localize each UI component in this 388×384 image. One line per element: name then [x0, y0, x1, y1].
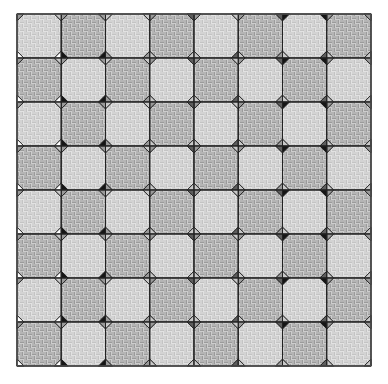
octagon-tile-medium [150, 14, 194, 58]
octagon-tile-light [150, 234, 194, 278]
octagon-tile-medium [17, 234, 61, 278]
octagon-tile-medium [327, 14, 371, 58]
octagon-tile-light [150, 322, 194, 366]
octagon-tile-medium [106, 146, 150, 190]
octagon-tile-medium [283, 58, 327, 102]
octagon-tile-medium [106, 234, 150, 278]
octagon-tile-light [194, 278, 238, 322]
octagon-tile-medium [238, 190, 282, 234]
octagon-tile-medium [283, 146, 327, 190]
octagon-tile-board [0, 0, 388, 384]
octagon-tile-light [283, 102, 327, 146]
octagon-tile-light [17, 102, 61, 146]
octagon-tile-medium [150, 102, 194, 146]
octagon-tile-medium [327, 278, 371, 322]
octagon-tile-medium [150, 278, 194, 322]
octagon-tile-medium [194, 146, 238, 190]
octagon-tile-medium [283, 322, 327, 366]
octagon-tile-medium [61, 102, 105, 146]
octagon-tile-light [61, 322, 105, 366]
octagon-tile-light [106, 14, 150, 58]
octagon-tile-medium [61, 14, 105, 58]
octagon-tile-medium [106, 322, 150, 366]
octagon-tile-light [327, 234, 371, 278]
octagon-tile-medium [150, 190, 194, 234]
octagon-tile-light [150, 146, 194, 190]
octagon-tile-medium [238, 14, 282, 58]
octagon-tile-light [106, 102, 150, 146]
octagon-tile-light [17, 190, 61, 234]
octagon-tile-light [194, 14, 238, 58]
octagon-tile-medium [61, 190, 105, 234]
octagon-tile-medium [17, 322, 61, 366]
octagon-tile-light [327, 146, 371, 190]
octagon-tile-light [194, 102, 238, 146]
octagon-tile-medium [238, 278, 282, 322]
octagon-tile-light [238, 146, 282, 190]
octagon-tile-medium [327, 190, 371, 234]
octagon-tile-light [61, 146, 105, 190]
octagon-tile-medium [194, 234, 238, 278]
octagon-tile-medium [194, 58, 238, 102]
octagon-tile-light [61, 58, 105, 102]
octagon-tile-light [238, 234, 282, 278]
octagon-tile-medium [17, 146, 61, 190]
octagon-tile-light [194, 190, 238, 234]
octagon-tile-light [106, 190, 150, 234]
octagon-tile-medium [238, 102, 282, 146]
octagon-tile-light [61, 234, 105, 278]
octagon-tile-medium [327, 102, 371, 146]
octagon-tile-medium [283, 234, 327, 278]
octagon-tile-light [327, 322, 371, 366]
octagon-tile-light [327, 58, 371, 102]
octagon-tile-medium [106, 58, 150, 102]
octagon-tile-light [283, 14, 327, 58]
octagon-tile-light [283, 190, 327, 234]
octagon-tile-medium [61, 278, 105, 322]
octagon-tile-medium [17, 58, 61, 102]
octagon-tile-light [238, 322, 282, 366]
octagon-tile-light [283, 278, 327, 322]
octagon-tile-light [17, 14, 61, 58]
octagon-tile-light [238, 58, 282, 102]
octagon-tile-light [106, 278, 150, 322]
octagon-tile-light [150, 58, 194, 102]
octagon-tile-medium [194, 322, 238, 366]
octagon-tile-light [17, 278, 61, 322]
